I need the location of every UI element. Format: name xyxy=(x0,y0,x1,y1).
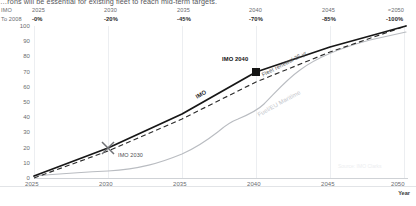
x-tick-2035: 2035 xyxy=(173,181,187,187)
x-tick-2040: 2040 xyxy=(247,181,261,187)
annotation-imo-2040: IMO 2040 xyxy=(222,56,248,62)
x-tick-2050: 2050 xyxy=(391,181,405,187)
chart-root: …rons will be essential for existing fle… xyxy=(0,0,416,206)
x-tick-2030: 2030 xyxy=(99,181,113,187)
x-tick-2045: 2045 xyxy=(321,181,335,187)
marker-imo-2040 xyxy=(252,68,260,76)
source-note: Source: IMO Clarks xyxy=(338,163,382,169)
marker-imo-2030 xyxy=(102,142,114,154)
chart-svg xyxy=(0,0,416,206)
series-imo xyxy=(34,26,406,176)
x-tick-2025: 2025 xyxy=(25,181,39,187)
annotation-imo-2030: IMO 2030 xyxy=(118,152,143,158)
x-axis-title: Year xyxy=(398,190,410,196)
